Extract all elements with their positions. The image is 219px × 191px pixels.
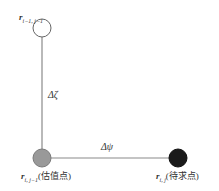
target-node-label: ri, j(待求点) xyxy=(156,172,199,183)
diagram-canvas xyxy=(0,0,219,191)
estimate-node-sub: i, j−1 xyxy=(25,177,38,183)
target-node-circle xyxy=(169,149,187,167)
top-node-sub: i−1, j−1 xyxy=(23,18,43,24)
estimate-node-suffix: (估值点) xyxy=(38,171,71,181)
estimate-node-label: ri, j−1(估值点) xyxy=(21,172,71,183)
top-node-label: ri−1, j−1 xyxy=(19,13,43,24)
delta-zeta-label: Δζ xyxy=(48,90,58,100)
estimate-node-circle xyxy=(33,149,51,167)
target-node-suffix: (待求点) xyxy=(166,171,199,181)
delta-psi-label: Δψ xyxy=(101,142,113,152)
